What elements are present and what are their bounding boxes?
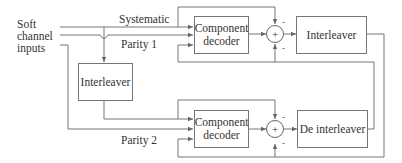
decoder-bottom-label-2: decoder bbox=[203, 129, 239, 142]
interleaver-left-block: Interleaver bbox=[78, 63, 133, 101]
component-decoder-top-block: Component decoder bbox=[194, 16, 249, 54]
decoder-top-label-1: Component bbox=[195, 22, 249, 35]
interleaver-left-label: Interleaver bbox=[81, 76, 131, 89]
summer-top-sign-lower: - bbox=[282, 44, 285, 53]
component-decoder-bottom-block: Component decoder bbox=[194, 110, 249, 148]
parity1-label: Parity 1 bbox=[121, 38, 157, 50]
decoder-bottom-label-1: Component bbox=[195, 116, 249, 129]
summer-top-sign-upper: - bbox=[282, 18, 285, 27]
inputs-label-line2: channel bbox=[17, 30, 53, 42]
decoder-top-label-2: decoder bbox=[203, 35, 239, 48]
summer-bottom-sign-lower: - bbox=[282, 139, 285, 148]
deinterleaver-label: De interleaver bbox=[300, 123, 365, 136]
deinterleaver-block: De interleaver bbox=[297, 110, 368, 148]
interleaver-right-block: Interleaver bbox=[296, 16, 367, 54]
summer-bottom-symbol: + bbox=[272, 123, 278, 135]
soft-inputs-label: Soft channel inputs bbox=[17, 18, 53, 54]
inputs-label-line1: Soft bbox=[17, 18, 53, 30]
inputs-label-line3: inputs bbox=[17, 42, 53, 54]
summer-top: + bbox=[266, 25, 284, 43]
summer-top-symbol: + bbox=[272, 28, 278, 40]
systematic-label: Systematic bbox=[119, 13, 169, 25]
summer-bottom: + bbox=[266, 120, 284, 138]
summer-bottom-sign-upper: - bbox=[282, 113, 285, 122]
parity2-label: Parity 2 bbox=[121, 134, 157, 146]
interleaver-right-label: Interleaver bbox=[307, 29, 357, 42]
